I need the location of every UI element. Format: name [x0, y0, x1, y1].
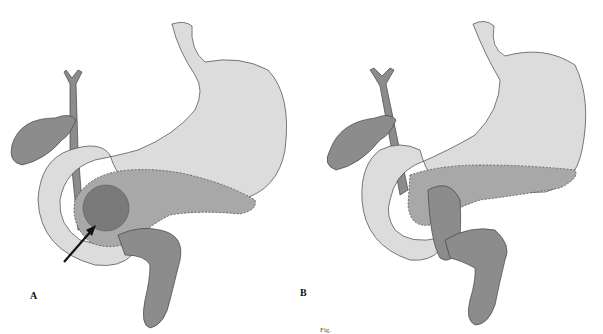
panel-b: B — [300, 0, 600, 334]
figure-caption: Fig. — [320, 326, 331, 334]
panel-label-a: A — [30, 290, 37, 301]
panel-a: A — [0, 0, 300, 334]
anatomy-illustration-a — [0, 0, 300, 334]
anatomy-illustration-b — [300, 0, 603, 334]
panel-label-b: B — [300, 287, 307, 298]
